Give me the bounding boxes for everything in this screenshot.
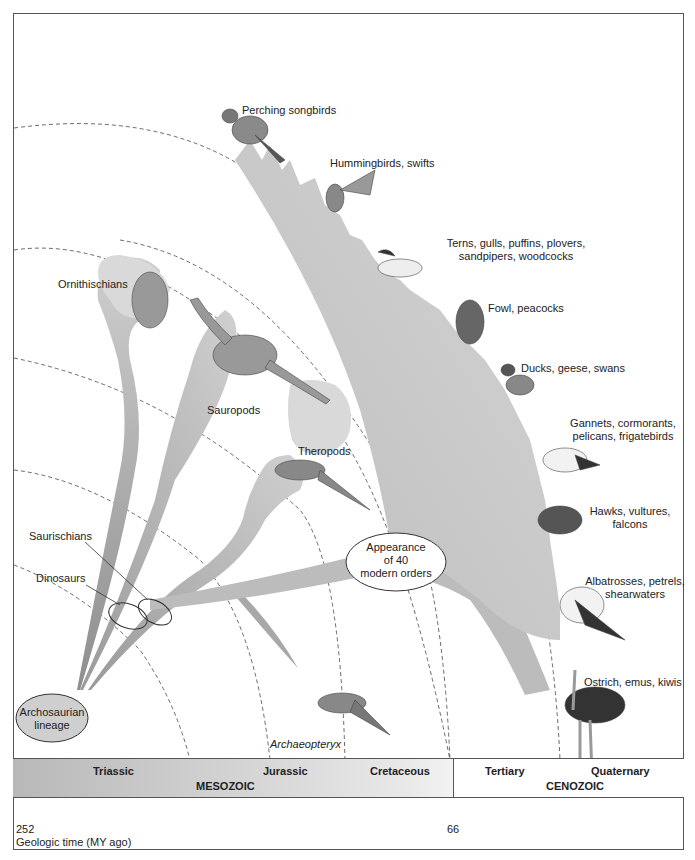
label-saurischians: Saurischians: [29, 530, 92, 543]
label-ornithischians: Ornithischians: [58, 278, 128, 291]
label-archaeopteryx: Archaeopteryx: [270, 738, 341, 751]
songbird-illustration: [232, 116, 268, 144]
label-gannets: Gannets, cormorants, pelicans, frigatebi…: [568, 417, 678, 443]
period-cretaceous: Cretaceous: [370, 765, 430, 777]
label-ostrich: Ostrich, emus, kiwis: [584, 676, 682, 689]
label-hawks: Hawks, vultures, falcons: [585, 505, 675, 531]
period-quaternary: Quaternary: [591, 765, 650, 777]
label-fowl: Fowl, peacocks: [488, 302, 564, 315]
label-modern-orders: Appearance of 40 modern orders: [346, 541, 446, 580]
era-cenozoic: Tertiary Quaternary CENOZOIC: [453, 758, 684, 798]
label-perching-songbirds: Perching songbirds: [242, 104, 336, 117]
hawk-illustration: [538, 506, 582, 534]
period-jurassic: Jurassic: [263, 765, 308, 777]
theropod-node: [288, 380, 351, 455]
label-ducks: Ducks, geese, swans: [521, 362, 625, 375]
label-theropods: Theropods: [298, 445, 351, 458]
ornithischian-illustration: [132, 272, 168, 328]
era-label-mesozoic: MESOZOIC: [196, 780, 255, 792]
label-albatrosses: Albatrosses, petrels, shearwaters: [580, 575, 690, 601]
label-archosaurian-lineage: Archosaurian lineage: [16, 706, 88, 732]
period-tertiary: Tertiary: [485, 765, 525, 777]
tick-252: 252: [16, 823, 34, 835]
sauropod-branch: [80, 310, 236, 690]
axis-label: Geologic time (MY ago): [16, 836, 131, 848]
fowl-illustration: [456, 300, 484, 344]
duck-illustration: [506, 375, 534, 395]
hummingbird-illustration: [326, 184, 344, 212]
label-sauropods: Sauropods: [207, 404, 260, 417]
label-hummingbirds: Hummingbirds, swifts: [330, 157, 435, 170]
era-mesozoic: Triassic Jurassic Cretaceous MESOZOIC: [13, 758, 453, 798]
theropod-illustration: [275, 460, 325, 480]
geologic-timeline: Triassic Jurassic Cretaceous MESOZOIC Te…: [13, 758, 684, 798]
era-label-cenozoic: CENOZOIC: [546, 780, 604, 792]
label-dinosaurs: Dinosaurs: [36, 572, 86, 585]
label-terns: Terns, gulls, puffins, plovers, sandpipe…: [416, 237, 616, 263]
period-triassic: Triassic: [93, 765, 134, 777]
phylogeny-diagram: [0, 0, 695, 760]
tick-66: 66: [447, 823, 459, 835]
